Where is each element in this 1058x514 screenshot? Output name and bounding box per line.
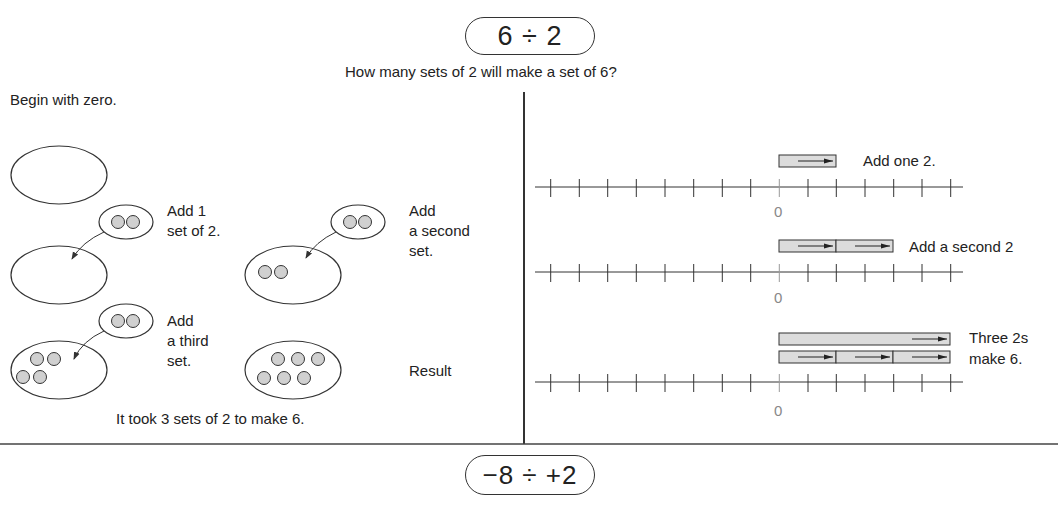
- number-line-2: [535, 240, 963, 282]
- number-line-1: [535, 155, 963, 197]
- number-line-3: [535, 333, 963, 392]
- set-after-step3: [11, 341, 107, 399]
- diagram-graphics: [0, 0, 1058, 514]
- set-after-step1: [11, 246, 107, 304]
- result-set: [245, 341, 341, 399]
- empty-set: [11, 146, 107, 204]
